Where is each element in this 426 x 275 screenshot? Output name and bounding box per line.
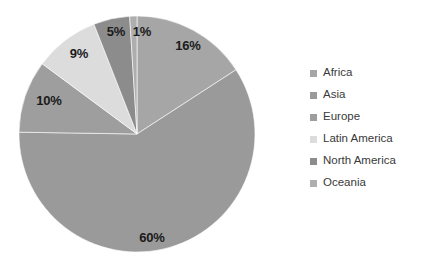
legend-swatch-icon-oceania: [310, 180, 317, 187]
pie-data-label-asia: 60%: [139, 231, 164, 244]
legend-item-asia[interactable]: Asia: [310, 84, 422, 106]
legend-label-oceania: Oceania: [323, 177, 366, 189]
pie-plot-area: 16%60%10%9%5%1%: [0, 0, 290, 275]
legend-label-asia: Asia: [323, 89, 345, 101]
legend-item-north-america[interactable]: North America: [310, 150, 422, 172]
chart-legend: AfricaAsiaEuropeLatin AmericaNorth Ameri…: [310, 62, 422, 194]
legend-swatch-icon-asia: [310, 92, 317, 99]
legend-swatch-icon-latin-america: [310, 136, 317, 143]
pie-data-label-oceania: 1%: [133, 25, 151, 38]
pie-slice-group: [19, 16, 255, 252]
pie-data-label-africa: 16%: [175, 39, 200, 52]
legend-item-oceania[interactable]: Oceania: [310, 172, 422, 194]
pie-data-label-north-america: 5%: [107, 25, 125, 38]
legend-swatch-icon-africa: [310, 70, 317, 77]
legend-item-africa[interactable]: Africa: [310, 62, 422, 84]
legend-label-africa: Africa: [323, 67, 352, 79]
legend-swatch-icon-north-america: [310, 158, 317, 165]
pie-data-label-latin-america: 9%: [70, 47, 88, 60]
legend-label-north-america: North America: [323, 155, 396, 167]
legend-swatch-icon-europe: [310, 114, 317, 121]
legend-item-europe[interactable]: Europe: [310, 106, 422, 128]
legend-item-latin-america[interactable]: Latin America: [310, 128, 422, 150]
pie-chart: 16%60%10%9%5%1% AfricaAsiaEuropeLatin Am…: [0, 0, 426, 275]
pie-data-label-europe: 10%: [36, 94, 61, 107]
legend-label-europe: Europe: [323, 111, 360, 123]
legend-label-latin-america: Latin America: [323, 133, 393, 145]
